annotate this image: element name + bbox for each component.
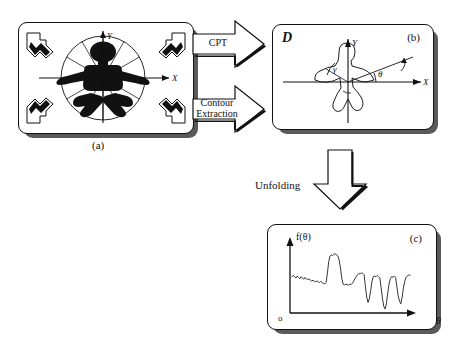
gamma-ray xyxy=(326,69,348,82)
gamma-label: γ xyxy=(333,64,337,74)
panel-b-d-label: D xyxy=(282,30,292,46)
panel-a-card: X Y xyxy=(18,22,194,134)
arrow-cpt-body xyxy=(193,21,264,67)
panel-c-y-label: f(θ) xyxy=(296,231,311,242)
panel-a-content: X Y xyxy=(19,23,193,133)
corner-arrow-top-right xyxy=(159,33,185,58)
panel-c-x-label: θ xyxy=(436,315,441,326)
panel-b-x-label: X xyxy=(422,77,429,87)
arrow-contour-shadow xyxy=(195,121,236,131)
panel-b: X Y θ xyxy=(272,24,432,128)
arrow-unfolding-shadow xyxy=(352,152,364,187)
arrow-unfolding xyxy=(310,148,370,212)
rotation-arrowhead xyxy=(401,58,407,63)
panel-a-x-label: X xyxy=(171,73,178,83)
arrow-contour-body xyxy=(193,86,264,132)
figure-canvas: X Y xyxy=(0,0,457,356)
arrow-unfolding-label: Unfolding xyxy=(255,179,300,191)
arrow-contour-extraction: Contour Extraction xyxy=(191,83,267,135)
panel-a-y-label: Y xyxy=(107,31,113,41)
corner-arrow-bottom-right xyxy=(159,98,185,123)
panel-c: f(θ) (c) o θ xyxy=(267,224,435,328)
panel-c-caption: (c) xyxy=(410,232,422,244)
lower-angle-arc xyxy=(343,91,351,93)
panel-b-caption: (b) xyxy=(407,31,420,43)
panel-a: X Y xyxy=(18,22,192,132)
panel-a-caption: (a) xyxy=(92,139,104,151)
theta-arc xyxy=(374,73,376,82)
contour-outline xyxy=(315,43,374,111)
panel-b-y-label: Y xyxy=(352,38,358,48)
theta-label: θ xyxy=(378,69,383,79)
panel-a-y-arrowhead xyxy=(100,31,106,38)
silhouette-polar-diagram: X Y xyxy=(19,23,193,133)
panel-c-origin-label: o xyxy=(278,313,283,323)
corner-arrow-bottom-left xyxy=(27,98,53,123)
panel-c-y-arrowhead xyxy=(287,237,294,246)
panel-a-x-arrowhead xyxy=(162,75,169,81)
arrow-cpt-shadow xyxy=(195,56,236,66)
arrow-unfolding-body xyxy=(314,150,366,209)
panel-c-x-arrowhead xyxy=(407,310,416,317)
panel-b-x-arrowhead xyxy=(413,79,421,85)
corner-arrow-top-left xyxy=(27,33,53,58)
arrow-cpt: CPT xyxy=(191,18,267,70)
signature-curve xyxy=(292,254,410,309)
